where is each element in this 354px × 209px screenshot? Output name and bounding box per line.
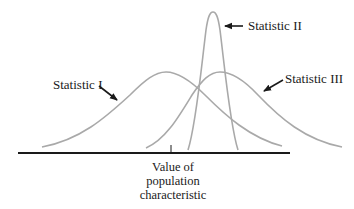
statistic-1-label: Statistic I bbox=[53, 78, 102, 92]
axis-caption-line-3: characteristic bbox=[130, 188, 216, 202]
axis-caption: Value of population characteristic bbox=[130, 160, 216, 202]
statistic-2-curve bbox=[188, 12, 238, 150]
statistic-3-label: Statistic III bbox=[285, 72, 343, 86]
statistic-3-arrow-icon bbox=[264, 80, 283, 91]
axis-caption-line-1: Value of bbox=[130, 160, 216, 174]
statistic-2-label: Statistic II bbox=[248, 19, 302, 33]
sampling-distributions-diagram: Statistic I Statistic II Statistic III V… bbox=[0, 0, 354, 209]
axis-caption-line-2: population bbox=[130, 174, 216, 188]
